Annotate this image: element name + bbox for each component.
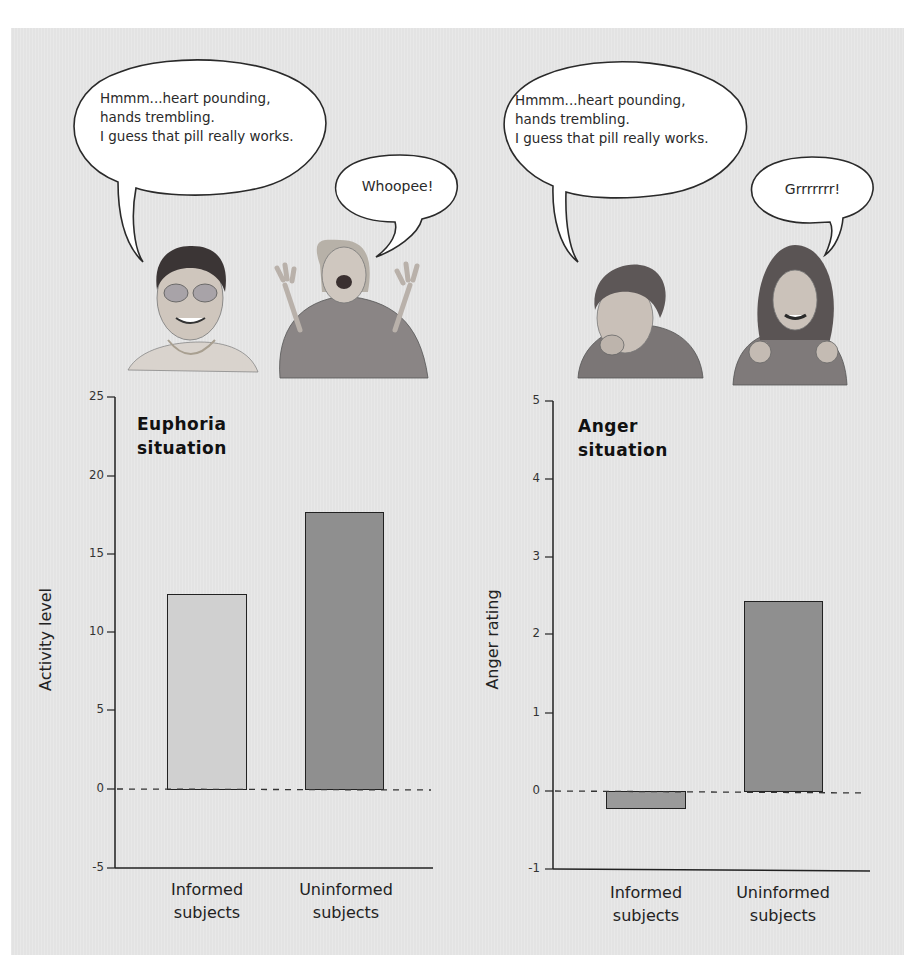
bar-uninformed-euphoria	[305, 512, 384, 790]
right-thought-line-3: I guess that pill really works.	[515, 129, 709, 148]
x-label-uninformed: Uninformed subjects	[718, 881, 848, 927]
bar-informed-anger	[606, 791, 686, 809]
grrrrrrr-speech-bubble	[752, 157, 874, 255]
anger-title-line-2: situation	[578, 438, 668, 462]
left-thought-text: Hmmm...heart pounding, hands trembling. …	[100, 89, 294, 146]
grrrrrrr-text: Grrrrrrr!	[760, 181, 865, 197]
y-tick: 15	[74, 545, 104, 560]
y-tick: 3	[510, 548, 540, 563]
right-thought-text: Hmmm...heart pounding, hands trembling. …	[515, 91, 709, 148]
y-tick: 2	[510, 625, 540, 640]
y-tick: -1	[510, 860, 540, 875]
x-label-line: Uninformed	[281, 878, 411, 901]
x-label-line: Uninformed	[718, 881, 848, 904]
uninformed-woman-cheering-icon	[277, 240, 428, 378]
right-thought-line-2: hands trembling.	[515, 110, 709, 129]
anger-chart-title: Anger situation	[578, 414, 668, 462]
y-tick: 25	[74, 388, 104, 403]
x-label-line: subjects	[581, 904, 711, 927]
euphoria-title-line-1: Euphoria	[137, 412, 227, 436]
y-tick: 5	[510, 392, 540, 407]
x-label-informed: Informed subjects	[581, 881, 711, 927]
euphoria-title-line-2: situation	[137, 436, 227, 460]
x-label-line: subjects	[142, 901, 272, 924]
y-tick: 5	[74, 701, 104, 716]
y-tick: 10	[74, 623, 104, 638]
euphoria-chart-axes	[107, 397, 433, 868]
y-tick: 20	[74, 467, 104, 482]
euphoria-y-axis-label: Activity level	[36, 570, 55, 710]
euphoria-chart-title: Euphoria situation	[137, 412, 227, 460]
x-label-line: Informed	[142, 878, 272, 901]
y-tick: 1	[510, 704, 540, 719]
anger-title-line-1: Anger	[578, 414, 668, 438]
left-thought-line-3: I guess that pill really works.	[100, 127, 294, 146]
x-label-line: Informed	[581, 881, 711, 904]
right-thought-line-1: Hmmm...heart pounding,	[515, 91, 709, 110]
x-label-line: subjects	[281, 901, 411, 924]
left-thought-line-2: hands trembling.	[100, 108, 294, 127]
whoopee-text: Whoopee!	[345, 178, 450, 194]
y-tick: 4	[510, 470, 540, 485]
uninformed-woman-angry-icon	[733, 245, 847, 385]
left-thought-line-1: Hmmm...heart pounding,	[100, 89, 294, 108]
y-tick: 0	[510, 782, 540, 797]
x-label-uninformed: Uninformed subjects	[281, 878, 411, 924]
whoopee-speech-bubble	[336, 155, 458, 257]
y-tick: 0	[74, 780, 104, 795]
informed-man-nervous-icon	[578, 265, 703, 378]
y-tick: -5	[74, 859, 104, 874]
x-label-informed: Informed subjects	[142, 878, 272, 924]
x-label-line: subjects	[718, 904, 848, 927]
anger-y-axis-label: Anger rating	[483, 570, 502, 710]
bar-informed-euphoria	[167, 594, 247, 790]
informed-man-smiling-icon	[128, 246, 258, 372]
bar-uninformed-anger	[744, 601, 823, 792]
